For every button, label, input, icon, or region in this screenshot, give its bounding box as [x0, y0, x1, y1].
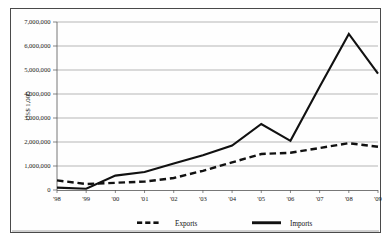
x-tick-label: '01	[141, 195, 149, 202]
line-chart: 01,000,0002,000,0003,000,0004,000,0005,0…	[0, 0, 392, 243]
y-tick-label: 7,000,000	[24, 18, 51, 25]
x-tick-label: '99	[82, 195, 90, 202]
y-tick-label: 5,000,000	[24, 66, 51, 73]
x-tick-label: '03	[199, 195, 207, 202]
x-tick-label: '00	[111, 195, 119, 202]
x-tick-label: '04	[228, 195, 236, 202]
gridlines	[57, 22, 378, 166]
legend-label: Exports	[175, 220, 198, 228]
y-tick-label: 1,000,000	[24, 162, 51, 169]
y-tick-label: 0	[47, 186, 51, 193]
legend-label: Imports	[290, 220, 313, 228]
x-axis-ticks: '98'99'00'01'02'03'04'05'06'07'08'09	[53, 190, 382, 202]
legend-swatch-dashed	[153, 221, 158, 224]
x-tick-label: '98	[53, 195, 61, 202]
chart-legend: ExportsImports	[137, 220, 313, 228]
x-tick-label: '07	[316, 195, 324, 202]
x-tick-label: '05	[257, 195, 265, 202]
x-tick-label: '02	[170, 195, 178, 202]
y-tick-label: 6,000,000	[24, 42, 51, 49]
x-tick-label: '09	[374, 195, 382, 202]
series-line-imports	[57, 34, 378, 189]
x-tick-label: '06	[287, 195, 295, 202]
legend-swatch-dashed	[137, 221, 142, 224]
y-axis-title: US$ 1,000	[24, 91, 31, 121]
legend-swatch-solid	[252, 221, 281, 224]
legend-swatch-dashed	[145, 221, 150, 224]
x-tick-label: '08	[345, 195, 353, 202]
y-tick-label: 2,000,000	[24, 138, 51, 145]
